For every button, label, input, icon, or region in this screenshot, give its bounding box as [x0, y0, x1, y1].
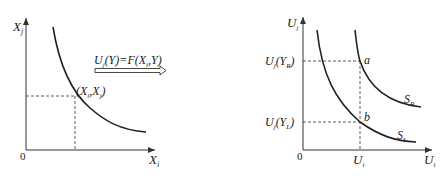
y-tick-low-label: Uj(YL): [265, 115, 294, 131]
curve-s-right-label: SR: [404, 92, 415, 108]
transform-label: Uj(Y)=F(Xi,Y): [94, 53, 162, 69]
left-panel: Xj Xi 0 (Xi,Xj): [12, 18, 159, 169]
left-indifference-curve: [53, 27, 146, 132]
hollow-right-arrow-icon: [95, 66, 166, 75]
curve-s-left-label: SL: [397, 128, 407, 144]
transform-mapping: Uj(Y)=F(Xi,Y): [94, 53, 166, 75]
point-b-label: b: [364, 110, 370, 124]
left-point-label: (Xi,Xj): [76, 84, 106, 100]
left-x-axis-label: Xi: [148, 152, 159, 169]
curve-s-right: [355, 30, 421, 107]
right-origin-label: 0: [297, 150, 303, 162]
point-a-label: a: [364, 53, 370, 67]
y-tick-high-label: Uj(YR): [265, 54, 295, 70]
right-panel: Uj Ui 0 Ui Uj(YR) Uj(YL) a b SR SL: [265, 15, 435, 169]
right-x-axis-label: Ui: [424, 152, 435, 169]
left-y-axis-label: Xj: [12, 19, 24, 36]
right-y-axis-label: Uj: [287, 15, 298, 32]
diagram-canvas: Xj Xi 0 (Xi,Xj) Uj(Y)=F(Xi,Y) Uj Ui 0 Ui…: [0, 0, 444, 178]
x-tick-label: Ui: [353, 152, 364, 169]
left-origin-label: 0: [20, 150, 26, 162]
curve-s-left: [317, 30, 416, 142]
